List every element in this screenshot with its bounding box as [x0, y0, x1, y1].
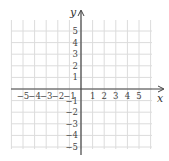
- y-tick-label: 2: [73, 61, 78, 71]
- y-tick-label: −1: [65, 96, 78, 106]
- y-tick-label: −4: [65, 130, 78, 140]
- x-tick-label: 2: [101, 91, 106, 101]
- x-tick-label: 4: [125, 91, 130, 101]
- y-tick-label: 1: [73, 72, 78, 82]
- x-axis-label: x: [157, 92, 164, 105]
- x-tick-label: 1: [90, 91, 95, 101]
- x-tick-label: 5: [136, 91, 141, 101]
- y-tick-label: 5: [73, 26, 78, 36]
- y-tick-label: −2: [65, 107, 78, 117]
- y-tick-label: −5: [65, 142, 78, 152]
- coordinate-grid: xy−5−4−3−2−11234554321−1−2−3−4−5: [0, 0, 169, 161]
- y-tick-label: 3: [73, 49, 78, 59]
- y-tick-label: −3: [65, 119, 78, 129]
- y-tick-label: 4: [73, 38, 78, 48]
- x-tick-label: 3: [113, 91, 118, 101]
- y-axis-label: y: [69, 6, 77, 19]
